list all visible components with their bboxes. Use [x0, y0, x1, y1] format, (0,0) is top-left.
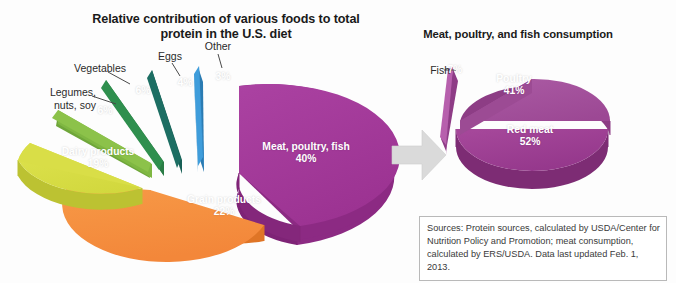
source-note-text: Sources: Protein sources, calculated by …: [427, 222, 660, 274]
chart-canvas: Relative contribution of various foods t…: [0, 0, 676, 283]
label-eggs: Eggs: [150, 50, 190, 63]
slice-poultry: [460, 79, 610, 135]
left-pie-chart: [0, 48, 400, 273]
slice-fish: [440, 67, 458, 155]
right-chart-title: Meat, poultry, and fish consumption: [418, 28, 618, 42]
label-fish: Fish: [418, 64, 450, 77]
label-other: Other: [196, 40, 240, 53]
slice-red-meat: [456, 129, 608, 189]
right-pie-chart: [420, 55, 640, 215]
label-legumes-nuts-soy: Legumes, nuts, soy: [8, 86, 96, 111]
left-chart-title: Relative contribution of various foods t…: [92, 12, 360, 43]
label-vegetables: Vegetables: [30, 62, 126, 75]
slice-other: [194, 66, 204, 172]
source-note: Sources: Protein sources, calculated by …: [419, 216, 667, 281]
slice-meat-poultry-fish: [236, 84, 400, 245]
